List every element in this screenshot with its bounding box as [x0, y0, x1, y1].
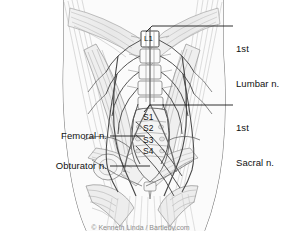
- figure-caption: © Kenneth Linda / Bartleby.com: [0, 224, 281, 231]
- callout-femoral-nerve: Femoral n.: [61, 130, 107, 142]
- callout-obturator-nerve: Obturator n.: [56, 160, 107, 172]
- vertebra-label-s1: S1: [143, 113, 153, 122]
- anatomy-figure: 1st Lumbar n. 1st Sacral n. Femoral n. O…: [0, 0, 281, 231]
- callout-first-lumbar-line2: Lumbar n.: [236, 78, 279, 90]
- vertebra-label-s2: S2: [143, 124, 153, 133]
- vertebra-label-s3: S3: [143, 136, 153, 145]
- callout-first-sacral-line1: 1st: [236, 122, 274, 134]
- vertebra-label-s4: S4: [143, 147, 153, 156]
- vertebra-label-l1: L1: [144, 34, 153, 43]
- callout-first-lumbar-line1: 1st: [236, 43, 279, 55]
- callout-first-sacral-nerve: 1st Sacral n.: [236, 99, 274, 191]
- callout-first-sacral-line2: Sacral n.: [236, 157, 274, 169]
